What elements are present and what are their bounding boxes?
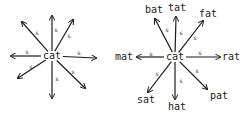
edge-label-s: s xyxy=(25,49,28,55)
edge-label-s: s xyxy=(179,30,182,36)
left-center-node-cat: cat xyxy=(43,51,61,61)
edge-label-s: s xyxy=(193,35,196,41)
arrow-down-right xyxy=(180,62,207,89)
edge-label-s: s xyxy=(165,27,168,33)
arrow-down-left xyxy=(148,62,171,92)
arrow-up-left xyxy=(22,22,48,51)
edge-label-s: s xyxy=(35,30,38,36)
edge-label-s: s xyxy=(55,76,58,82)
edge-label-s: s xyxy=(77,50,80,56)
node-rat: rat xyxy=(222,52,240,62)
node-fat: fat xyxy=(199,9,217,19)
edge-label-s: s xyxy=(179,78,182,84)
node-sat: sat xyxy=(137,95,155,105)
edge-label-s: s xyxy=(71,69,74,75)
arrow-right xyxy=(63,57,96,59)
right-center-node-cat: cat xyxy=(166,52,184,62)
edge-label-s: s xyxy=(67,33,70,39)
edge-label-s: s xyxy=(155,71,158,77)
node-hat: hat xyxy=(168,102,186,112)
edge-label-s: s xyxy=(29,64,32,70)
node-pat: pat xyxy=(210,91,228,101)
edge-label-s: s xyxy=(195,68,198,74)
edge-label-s: s xyxy=(149,51,152,57)
arrow-up xyxy=(175,17,176,52)
edge-label-s: s xyxy=(54,27,57,33)
node-bat: bat xyxy=(145,5,163,15)
node-mat: mat xyxy=(115,52,133,62)
arrow-up-right xyxy=(179,21,203,52)
edge-label-s: s xyxy=(198,50,201,56)
node-tat: tat xyxy=(168,3,186,13)
arrow-up-left xyxy=(155,19,172,52)
